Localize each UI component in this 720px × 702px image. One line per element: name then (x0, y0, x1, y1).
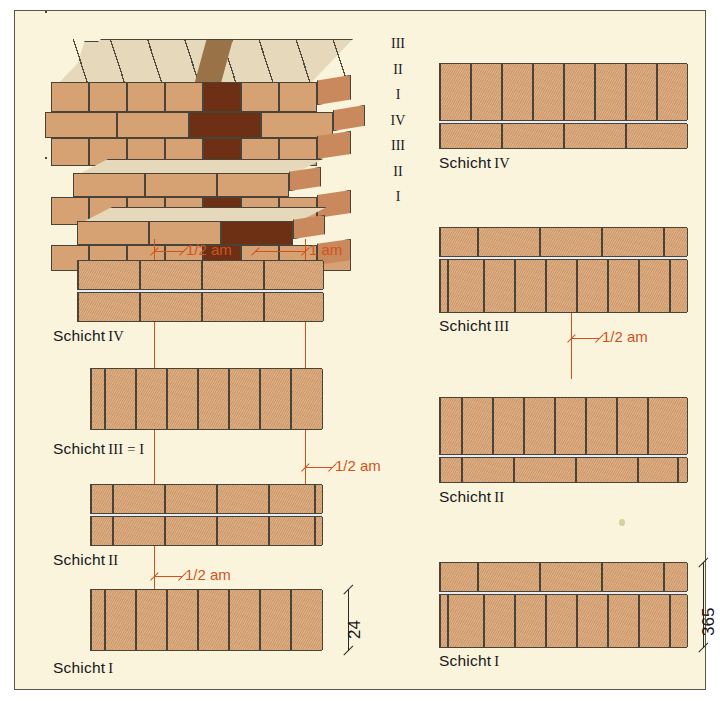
paper-speck (619, 519, 625, 526)
caption-right-schicht-iii: SchichtIII (439, 317, 509, 335)
dimension-line (305, 467, 332, 468)
diagram-right-schicht-iii (439, 227, 687, 313)
diagram-left-schicht-ii (90, 484, 322, 546)
iso-course-label: II (381, 57, 415, 83)
caption-left-schicht-i: SchichtI (53, 659, 113, 677)
dimension-label-half-am: 1/2 am (186, 241, 232, 258)
dimension-label-half-am: 1/2 am (602, 328, 648, 345)
caption-left-schicht-iii-i: SchichtIII = I (53, 440, 144, 458)
diagram-right-schicht-iv (439, 63, 687, 149)
dimension-label-half-am: 1/2 am (335, 457, 381, 474)
alignment-guide (571, 311, 572, 379)
diagram-right-schicht-ii (439, 397, 687, 483)
caption-right-schicht-iv: SchichtIV (439, 154, 510, 172)
caption-right-schicht-i: SchichtI (439, 652, 499, 670)
iso-course-label: III (381, 133, 415, 159)
dimension-line (255, 251, 305, 252)
dimension-label-half-am: 1/2 am (185, 566, 231, 583)
dimension-line (571, 338, 599, 339)
diagram-right-schicht-i (439, 562, 687, 648)
iso-course-label: I (381, 82, 415, 108)
iso-course-label: III (381, 31, 415, 57)
caption-left-schicht-ii: SchichtII (53, 551, 118, 569)
figure-canvas: III II I IV III II I (0, 0, 720, 702)
dimension-line (154, 576, 182, 577)
dimension-line (154, 251, 183, 252)
iso-course-label: I (381, 184, 415, 210)
diagram-left-schicht-i (90, 589, 322, 651)
caption-right-schicht-ii: SchichtII (439, 488, 504, 506)
iso-course-label-list: III II I IV III II I (381, 31, 415, 210)
diagram-left-schicht-iii-i (90, 368, 322, 430)
thickness-label-365: 365 (699, 608, 719, 636)
iso-course-label: IV (381, 108, 415, 134)
dimension-label-one-am: 1 am (309, 241, 342, 258)
caption-left-schicht-iv: SchichtIV (53, 327, 124, 345)
isometric-lower-courses (43, 147, 383, 227)
iso-course-label: II (381, 159, 415, 185)
diagram-left-schicht-iv (77, 260, 323, 322)
thickness-label-24: 24 (345, 620, 365, 639)
figure-frame: III II I IV III II I (14, 10, 706, 690)
